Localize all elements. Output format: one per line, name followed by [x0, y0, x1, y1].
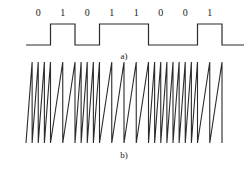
bit-label: 1 — [198, 5, 223, 20]
bit-label: 0 — [173, 5, 198, 20]
bit-label: 1 — [124, 5, 149, 20]
panel-b-label: b) — [0, 150, 248, 161]
bit-label: 0 — [149, 5, 174, 20]
bit-label: 0 — [26, 5, 51, 20]
bit-sequence-labels: 01011001 — [26, 5, 222, 20]
fsk-sawtooth-wave — [0, 60, 248, 146]
bit-label: 1 — [51, 5, 76, 20]
fsk-waveform-figure: 01011001 a) b) — [0, 0, 248, 176]
bit-label: 0 — [75, 5, 100, 20]
square-wave-path — [26, 24, 244, 45]
bit-label: 1 — [100, 5, 125, 20]
digital-square-wave — [0, 20, 248, 50]
sawtooth-wave-path — [26, 62, 222, 143]
